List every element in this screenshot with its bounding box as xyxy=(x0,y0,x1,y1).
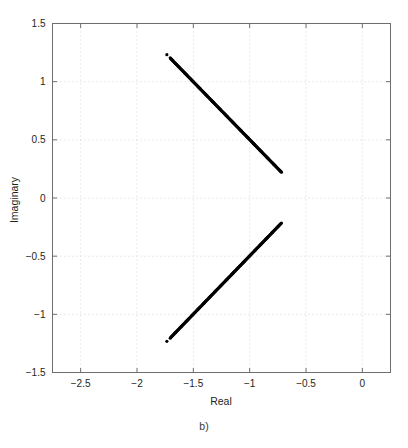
x-tick-label: −2.5 xyxy=(71,378,91,389)
y-axis-label: Imaginary xyxy=(8,176,20,223)
figure-panel: −2.5−2−1.5−1−0.50 −1.5−1−0.500.511.5 Rea… xyxy=(0,0,408,448)
x-tick-label: −0.5 xyxy=(296,378,316,389)
grid-lines xyxy=(53,24,391,373)
x-tick-label: −1 xyxy=(244,378,256,389)
y-tick-label: 1.5 xyxy=(32,18,46,29)
figure-caption: b) xyxy=(0,420,408,432)
y-tick-label: −0.5 xyxy=(26,251,46,262)
x-tick-label: −2 xyxy=(131,378,143,389)
x-tick-label: −1.5 xyxy=(183,378,203,389)
y-tick-label: −1.5 xyxy=(26,367,46,378)
y-tick-labels: −1.5−1−0.500.511.5 xyxy=(26,18,46,378)
x-tick-labels: −2.5−2−1.5−1−0.50 xyxy=(71,378,366,389)
scatter-plot: −2.5−2−1.5−1−0.50 −1.5−1−0.500.511.5 Rea… xyxy=(0,0,408,448)
x-tick-label: 0 xyxy=(360,378,366,389)
y-tick-label: 1 xyxy=(40,76,46,87)
y-tick-label: −1 xyxy=(34,309,46,320)
y-tick-label: 0.5 xyxy=(32,134,46,145)
y-tick-label: 0 xyxy=(40,193,46,204)
x-axis-label: Real xyxy=(210,395,232,407)
